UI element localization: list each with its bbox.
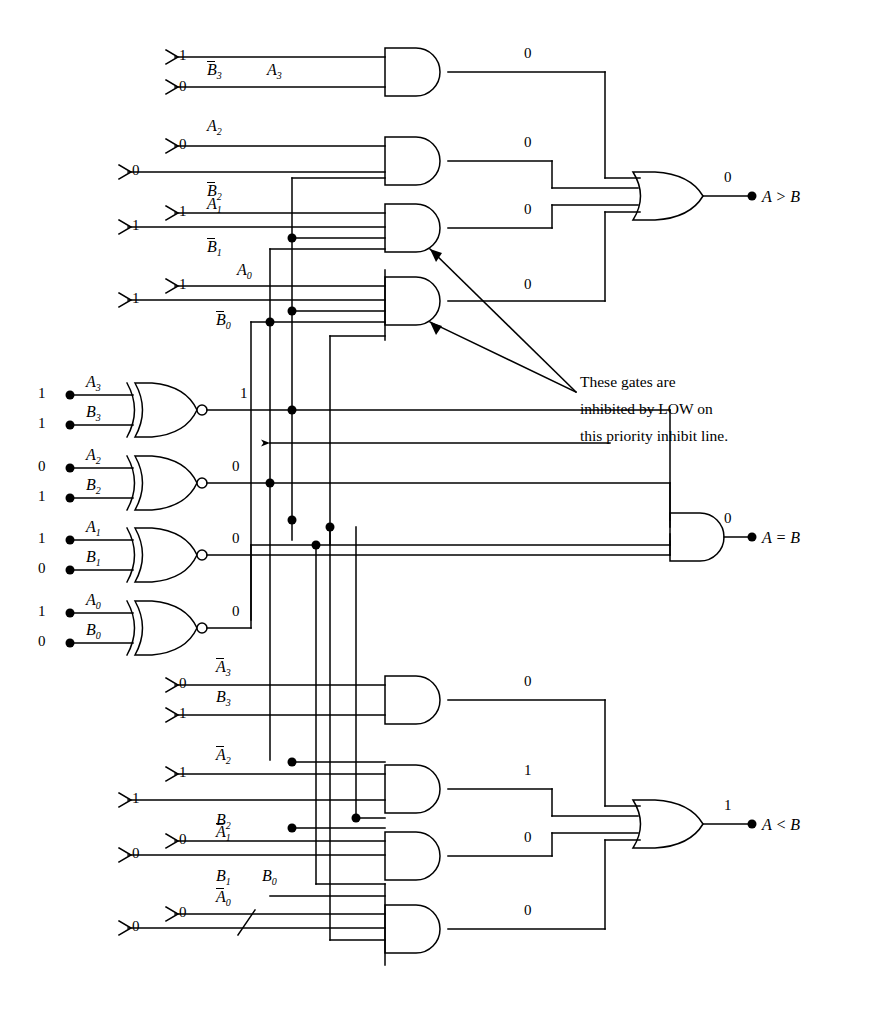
xnor-bubble-bit1 xyxy=(197,550,207,560)
xnor-gate-bit2 xyxy=(135,456,197,510)
output-node-gt xyxy=(748,192,757,201)
or-output-value-gt: 0 xyxy=(724,170,732,185)
and-gate-a2-lt xyxy=(385,765,440,813)
input-value-b2-eq: 1 xyxy=(38,489,46,504)
comparator-diagram: 1 0 B3 A3 0 0 0 A2 B2 0 1 1 A1 B1 0 1 1 … xyxy=(0,0,869,1016)
label-b0-lt: B0 xyxy=(262,868,277,887)
label-a1: A1 xyxy=(207,196,222,215)
input-value-b1-lt: 0 xyxy=(132,846,140,861)
output-value-a0-gt: 0 xyxy=(524,277,532,292)
and-gate-a3-lt xyxy=(385,676,440,724)
and-gate-a3-gt xyxy=(385,48,440,96)
annotation-line-2: inhibited by LOW on xyxy=(580,399,713,419)
label-a3: A3 xyxy=(267,62,282,81)
input-value-a1-eq: 1 xyxy=(38,531,46,546)
xnor-bubble-bit2 xyxy=(197,478,207,488)
xnor-output-value-bit0: 0 xyxy=(232,604,240,619)
output-value-a0-lt: 0 xyxy=(524,903,532,918)
output-label-gt: A > B xyxy=(762,188,800,206)
output-value-a3-gt: 0 xyxy=(524,46,532,61)
output-value-a2-gt: 0 xyxy=(524,135,532,150)
label-b3-eq: B3 xyxy=(86,404,101,423)
output-node-lt xyxy=(748,820,757,829)
input-value-a3-gt: 1 xyxy=(179,48,187,63)
xnor-bubble-bit3 xyxy=(197,405,207,415)
label-a2-eq: A2 xyxy=(86,447,101,466)
and-gate-a0-lt xyxy=(385,905,440,953)
xnor-output-value-bit3: 1 xyxy=(240,386,248,401)
or-gate-lt xyxy=(633,800,703,848)
input-value-a3-eq: 1 xyxy=(38,386,46,401)
label-a0: A0 xyxy=(237,262,252,281)
or-output-value-lt: 1 xyxy=(724,798,732,813)
output-value-a1-lt: 0 xyxy=(524,830,532,845)
input-value-a0-eq: 1 xyxy=(38,604,46,619)
input-value-a2-gt: 0 xyxy=(179,137,187,152)
and-output-value-eq: 0 xyxy=(724,511,732,526)
annotation-line-1: These gates are xyxy=(580,372,676,392)
output-value-a2-lt: 1 xyxy=(524,763,532,778)
label-a2: A2 xyxy=(207,118,222,137)
xnor-output-value-bit2: 0 xyxy=(232,459,240,474)
input-value-a1-gt: 1 xyxy=(179,204,187,219)
label-a3bar: A3 xyxy=(216,659,231,678)
label-a1-eq: A1 xyxy=(86,519,101,538)
input-value-b0-eq: 0 xyxy=(38,634,46,649)
output-value-a1-gt: 0 xyxy=(524,202,532,217)
label-b0-eq: B0 xyxy=(86,622,101,641)
xnor-gate-bit3 xyxy=(135,383,197,437)
and-gate-a1-gt xyxy=(385,204,440,252)
input-value-b0-lt: 0 xyxy=(132,919,140,934)
label-a0-eq: A0 xyxy=(86,592,101,611)
label-b1bar: B1 xyxy=(207,239,222,258)
label-b3bar: B3 xyxy=(207,62,222,81)
input-value-b2bar-gt: 0 xyxy=(132,163,140,178)
label-a2bar: A2 xyxy=(216,747,231,766)
or-gate-gt xyxy=(633,172,703,220)
annotation-line-3: this priority inhibit line. xyxy=(580,426,728,446)
leader-line-lower xyxy=(430,322,576,392)
input-value-b1bar-gt: 1 xyxy=(132,218,140,233)
and-gate-a0-gt xyxy=(385,277,440,325)
label-b1-lt: B1 xyxy=(216,868,231,887)
label-b1-eq: B1 xyxy=(86,549,101,568)
input-value-a0bar-lt: 0 xyxy=(179,905,187,920)
xnor-gate-bit0 xyxy=(135,601,197,655)
label-a0bar: A0 xyxy=(216,889,231,908)
input-value-b3bar-gt: 0 xyxy=(179,79,187,94)
and-gate-a1-lt xyxy=(385,832,440,880)
input-value-a3bar-lt: 0 xyxy=(179,676,187,691)
xnor-gate-bit1 xyxy=(135,528,197,582)
label-b0bar: B0 xyxy=(216,312,231,331)
label-a1bar: A1 xyxy=(216,824,231,843)
label-a3-eq: A3 xyxy=(86,374,101,393)
xnor-output-value-bit1: 0 xyxy=(232,531,240,546)
input-value-a0-gt: 1 xyxy=(179,277,187,292)
output-node-eq xyxy=(748,533,757,542)
input-value-a1bar-lt: 0 xyxy=(179,832,187,847)
label-b3-lt: B3 xyxy=(216,689,231,708)
input-value-b2-lt: 1 xyxy=(132,791,140,806)
input-value-b3-eq: 1 xyxy=(38,416,46,431)
label-b2-eq: B2 xyxy=(86,477,101,496)
output-value-a3-lt: 0 xyxy=(524,674,532,689)
and-gate-a2-gt xyxy=(385,137,440,185)
input-value-a2-eq: 0 xyxy=(38,459,46,474)
leader-line-upper xyxy=(430,249,576,392)
input-value-a2bar-lt: 1 xyxy=(179,765,187,780)
circuit-svg xyxy=(0,0,869,1016)
input-value-b3-lt: 1 xyxy=(179,706,187,721)
and-gate-eq xyxy=(670,513,724,561)
input-value-b1-eq: 0 xyxy=(38,561,46,576)
input-value-b0bar-gt: 1 xyxy=(132,291,140,306)
xnor-bubble-bit0 xyxy=(197,623,207,633)
output-label-lt: A < B xyxy=(762,816,800,834)
output-label-eq: A = B xyxy=(762,529,800,547)
